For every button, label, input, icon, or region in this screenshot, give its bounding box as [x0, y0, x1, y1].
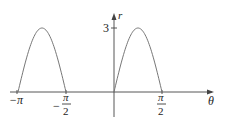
x-tick-label-neg-half-pi-num: π [63, 91, 69, 103]
y-tick-label-3: 3 [103, 21, 109, 35]
x-tick-label-half-pi-num: π [158, 91, 164, 103]
y-axis-label: r [118, 9, 123, 21]
x-tick-label-neg-half-pi-den: 2 [63, 105, 69, 117]
curve-right [114, 28, 162, 92]
curve-left [18, 28, 66, 92]
x-tick-label-half-pi-den: 2 [158, 105, 164, 117]
x-tick-label-neg-half-pi-minus: − [53, 99, 60, 113]
x-axis-label: θ [208, 94, 214, 108]
y-axis-arrow-icon [112, 13, 117, 20]
x-tick-label-neg-pi: −π [9, 93, 24, 107]
chart: r 3 θ −π − π 2 π 2 [0, 0, 227, 124]
